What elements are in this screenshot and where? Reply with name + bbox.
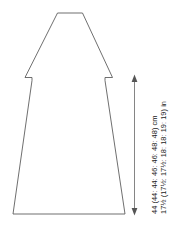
- dimension-label-cm: 44 (44: 44: 46: 46: 48: 48) cm: [151, 116, 158, 214]
- dimension-label-group: 44 (44: 44: 46: 46: 48: 48) cm 17½ (17½:…: [140, 0, 173, 229]
- schematic-canvas: 44 (44: 44: 46: 46: 48: 48) cm 17½ (17½:…: [0, 0, 173, 229]
- garment-outline-path: [13, 13, 125, 214]
- dimension-label-inches: 17½ (17½: 17½: 18: 18: 19: 19) in: [160, 101, 167, 214]
- dimension-arrowhead-top-icon: [132, 75, 138, 83]
- dimension-arrowhead-bottom-icon: [132, 208, 138, 216]
